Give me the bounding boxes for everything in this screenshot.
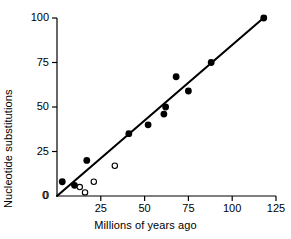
x-tick-label: 50 [125, 202, 165, 214]
y-tick-label: 50 [15, 100, 49, 112]
x-tick-label: 100 [212, 202, 252, 214]
y-axis-ticks [52, 18, 57, 152]
x-axis-title: Millions of years ago [0, 219, 291, 231]
open-data-point [112, 163, 117, 168]
y-tick-label: 25 [15, 145, 49, 157]
y-tick-label: 75 [15, 56, 49, 68]
filled-data-point [208, 59, 215, 66]
scatter-chart: Millions of years ago Nucleotide substit… [0, 0, 291, 239]
open-data-point [77, 184, 82, 189]
x-tick-label: 75 [168, 202, 208, 214]
filled-data-point [260, 15, 267, 22]
filled-data-point [145, 121, 152, 128]
y-tick-label: 0 [15, 189, 49, 201]
open-data-point [91, 179, 96, 184]
filled-data-point [83, 157, 90, 164]
filled-data-point [173, 73, 180, 80]
regression-line [57, 16, 265, 196]
filled-data-point [185, 88, 192, 95]
x-tick-label: 125 [256, 202, 291, 214]
x-tick-label: 25 [81, 202, 121, 214]
filled-data-point [125, 130, 132, 137]
x-axis-ticks [101, 196, 276, 201]
y-axis-title: Nucleotide substitutions [2, 0, 16, 208]
regression-line-segment [57, 16, 265, 196]
y-tick-label: 100 [15, 11, 49, 23]
filled-data-point [59, 178, 66, 185]
filled-data-point [160, 111, 167, 118]
filled-data-point [162, 104, 169, 111]
open-data-point [82, 190, 87, 195]
